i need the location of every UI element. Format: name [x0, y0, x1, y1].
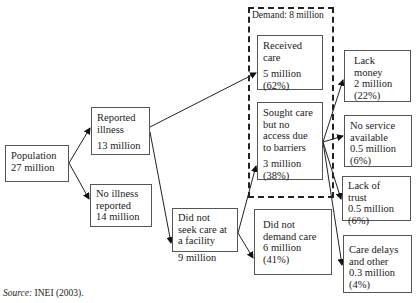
care-delays-pct: (4%): [349, 279, 406, 291]
source-note: Source: INEI (2003).: [3, 288, 84, 298]
care-delays-label: Care delays: [349, 244, 406, 256]
did-not-seek-value: 9 million: [178, 252, 232, 264]
sought-care-label: to barriers: [263, 142, 317, 154]
reported-illness-value: 13 million: [97, 140, 144, 152]
did-not-demand-label: demand care: [263, 231, 323, 243]
source-prefix: Source:: [3, 288, 32, 298]
care-delays-label: and other: [349, 256, 406, 268]
no-service-label: No service: [350, 120, 406, 132]
lack-trust-box: Lack of trust 0.5 million (6%): [342, 176, 411, 221]
care-delays-box: Care delays and other 0.3 million (4%): [343, 235, 412, 293]
no-service-box: No service available 0.5 million (6%): [344, 115, 412, 167]
did-not-seek-label: Did not: [178, 212, 232, 224]
reported-illness-box: Reported illness 13 million: [91, 107, 150, 155]
lack-trust-pct: (6%): [348, 215, 405, 227]
received-care-value: 5 million: [263, 68, 317, 80]
did-not-demand-value: 6 million: [263, 242, 323, 254]
received-care-label: Received: [263, 40, 317, 52]
sought-care-label: but no: [263, 119, 317, 131]
population-value: 27 million: [11, 162, 63, 174]
sought-care-value: 3 million: [263, 158, 317, 170]
source-text: INEI (2003).: [32, 288, 83, 298]
sought-care-label: access due: [263, 130, 317, 142]
no-service-value: 0.5 million: [350, 143, 406, 155]
no-service-label: available: [350, 132, 406, 144]
no-illness-label: reported: [96, 200, 146, 212]
no-service-pct: (6%): [350, 155, 406, 167]
did-not-seek-care-box: Did not seek care at a facility 9 millio…: [172, 208, 238, 252]
did-not-demand-pct: (41%): [263, 254, 323, 266]
did-not-demand-label: Did not: [263, 219, 323, 231]
reported-illness-label: illness: [97, 124, 144, 136]
care-delays-value: 0.3 million: [349, 267, 406, 279]
sought-care-box: Sought care but no access due to barrier…: [257, 102, 323, 180]
sought-care-label: Sought care: [263, 107, 317, 119]
no-illness-box: No illness reported 14 million: [90, 184, 152, 227]
did-not-seek-label: a facility: [178, 235, 232, 247]
demand-label: Demand: 8 million: [252, 10, 324, 21]
lack-trust-value: 0.5 million: [348, 203, 405, 215]
lack-money-pct: (22%): [354, 90, 405, 102]
lack-trust-label: trust: [348, 192, 405, 204]
lack-money-label: money: [354, 67, 405, 79]
received-care-box: Received care 5 million (62%): [257, 35, 323, 90]
population-label: Population: [11, 150, 63, 162]
no-illness-label: No illness: [96, 188, 146, 200]
lack-money-label: Lack: [354, 55, 405, 67]
did-not-demand-box: Did not demand care 6 million (41%): [254, 209, 332, 275]
reported-illness-label: Reported: [97, 112, 144, 124]
no-illness-value: 14 million: [96, 211, 146, 223]
received-care-pct: (62%): [263, 80, 317, 92]
population-box: Population 27 million: [5, 145, 69, 182]
received-care-label: care: [263, 52, 317, 64]
lack-trust-label: Lack of: [348, 180, 405, 192]
sought-care-pct: (38%): [263, 170, 317, 182]
did-not-seek-label: seek care at: [178, 224, 232, 236]
lack-money-box: Lack money 2 million (22%): [344, 50, 411, 102]
lack-money-value: 2 million: [354, 78, 405, 90]
